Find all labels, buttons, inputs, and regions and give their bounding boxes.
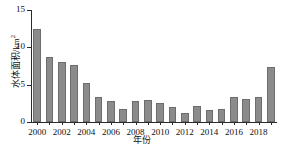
bar <box>70 65 78 122</box>
bar <box>169 107 177 122</box>
y-axis-tick-label: 10 <box>9 41 25 52</box>
bar-chart: 水体面积/km2 051015 200020022004200620082010… <box>0 0 283 152</box>
bar <box>58 62 66 122</box>
x-axis-tick <box>160 122 161 125</box>
y-axis-tick <box>27 10 31 11</box>
bar <box>242 99 250 122</box>
x-axis-tick <box>209 122 210 125</box>
bar <box>95 97 103 122</box>
x-axis-tick <box>49 122 50 125</box>
x-axis-tick <box>197 122 198 125</box>
bar <box>181 113 189 122</box>
bar <box>206 110 214 122</box>
y-axis-tick <box>27 47 31 48</box>
x-axis-tick <box>271 122 272 125</box>
x-axis-tick <box>99 122 100 125</box>
x-axis-tick <box>172 122 173 125</box>
x-axis-tick <box>185 122 186 125</box>
x-axis-tick <box>222 122 223 125</box>
y-axis-line <box>31 10 32 123</box>
x-axis-tick <box>246 122 247 125</box>
x-axis-tick <box>111 122 112 125</box>
x-axis-tick <box>74 122 75 125</box>
bar <box>255 97 263 122</box>
x-axis-tick <box>62 122 63 125</box>
bar <box>83 83 91 122</box>
plot-area: 051015 200020022004200620082010201220142… <box>31 10 277 123</box>
x-axis-tick <box>259 122 260 125</box>
x-axis-tick <box>37 122 38 125</box>
bar <box>267 67 275 122</box>
y-axis-tick-label: 0 <box>9 116 25 127</box>
bar <box>119 109 127 122</box>
y-axis-title: 水体面积/km2 <box>9 14 22 110</box>
y-axis-tick-label: 15 <box>9 4 25 15</box>
x-axis-tick <box>86 122 87 125</box>
x-axis-tick <box>148 122 149 125</box>
bar <box>46 57 54 122</box>
bar <box>193 106 201 122</box>
y-axis-tick <box>27 122 31 123</box>
x-axis-tick <box>234 122 235 125</box>
x-axis-tick <box>123 122 124 125</box>
bar <box>33 29 41 122</box>
bar <box>144 100 152 122</box>
x-axis-line <box>31 122 277 123</box>
bar <box>107 101 115 122</box>
bar <box>132 101 140 122</box>
x-axis-tick <box>136 122 137 125</box>
y-axis-tick-label: 5 <box>9 79 25 90</box>
bar <box>218 109 226 122</box>
x-axis-title: 年份 <box>0 133 283 146</box>
y-axis-tick <box>27 85 31 86</box>
bar <box>230 97 238 122</box>
y-axis-title-superscript: 2 <box>9 35 16 38</box>
bar <box>156 103 164 122</box>
